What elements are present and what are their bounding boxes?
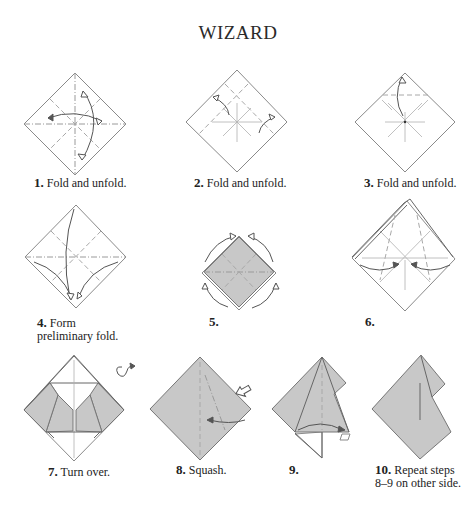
step-5-caption: 5. <box>209 315 219 329</box>
step-9-caption: 9. <box>289 463 299 477</box>
step-10-diagram <box>372 355 451 459</box>
step-4-diagram <box>25 205 126 308</box>
step-text: Squash. <box>189 463 227 477</box>
step-number: 6. <box>365 314 375 329</box>
step-6-diagram <box>352 199 455 311</box>
step-number: 4. <box>37 315 47 330</box>
step-9-diagram <box>272 357 350 458</box>
step-2-caption: 2. Fold and unfold. <box>194 176 286 190</box>
step-text: Fold and unfold. <box>377 176 457 190</box>
step-5-diagram <box>202 233 279 310</box>
step-4-caption: 4. Form preliminary fold. <box>37 316 118 343</box>
step-number: 5. <box>209 314 219 329</box>
step-7-diagram <box>24 355 135 461</box>
step-7-caption: 7. Turn over. <box>48 465 110 479</box>
step-1-caption: 1. Fold and unfold. <box>34 176 126 190</box>
step-number: 9. <box>289 462 299 477</box>
step-number: 8. <box>176 462 186 477</box>
step-text: Fold and unfold. <box>207 176 287 190</box>
step-text-line2: preliminary fold. <box>37 329 118 343</box>
step-3-caption: 3. Fold and unfold. <box>364 176 456 190</box>
step-number: 1. <box>34 175 44 190</box>
step-number: 10. <box>375 462 391 477</box>
diagram-canvas <box>0 0 476 514</box>
step-8-caption: 8. Squash. <box>176 463 226 477</box>
step-text: Fold and unfold. <box>47 176 127 190</box>
step-10-caption: 10. Repeat steps 8–9 on other side. <box>375 463 461 490</box>
step-1-diagram <box>24 73 126 175</box>
step-2-diagram <box>186 70 287 172</box>
step-text: Repeat steps <box>394 463 454 477</box>
step-text: Turn over. <box>61 465 111 479</box>
step-6-caption: 6. <box>365 315 375 329</box>
step-3-diagram <box>355 73 455 172</box>
step-text-line2: 8–9 on other side. <box>375 476 461 490</box>
step-text: Form <box>50 316 76 330</box>
step-8-diagram <box>150 357 252 460</box>
step-number: 2. <box>194 175 204 190</box>
step-number: 7. <box>48 464 58 479</box>
step-number: 3. <box>364 175 374 190</box>
